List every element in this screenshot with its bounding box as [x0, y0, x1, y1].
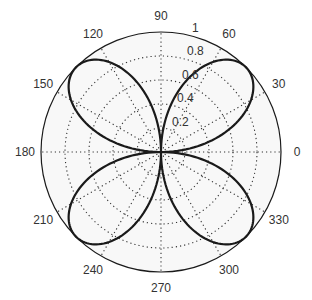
radial-tick-label: 1 [192, 21, 199, 35]
radial-tick-label: 0.4 [177, 91, 194, 105]
angle-tick-label: 240 [83, 263, 103, 277]
angle-tick-label: 210 [33, 213, 53, 227]
angle-tick-label: 180 [15, 145, 35, 159]
radial-tick-label: 0.8 [187, 44, 204, 58]
angle-tick-label: 60 [222, 27, 236, 41]
angle-tick-label: 150 [33, 77, 53, 91]
angle-tick-label: 330 [269, 213, 289, 227]
angle-tick-label: 270 [151, 281, 171, 295]
angle-tick-label: 90 [154, 9, 168, 23]
polar-plot: 03060901201501802102402703003300.20.40.6… [0, 0, 312, 300]
angle-tick-label: 120 [83, 27, 103, 41]
angle-tick-label: 30 [272, 77, 286, 91]
radial-tick-label: 0.6 [182, 68, 199, 82]
angle-tick-label: 0 [294, 145, 301, 159]
angle-tick-label: 300 [219, 263, 239, 277]
radial-tick-label: 0.2 [172, 115, 189, 129]
